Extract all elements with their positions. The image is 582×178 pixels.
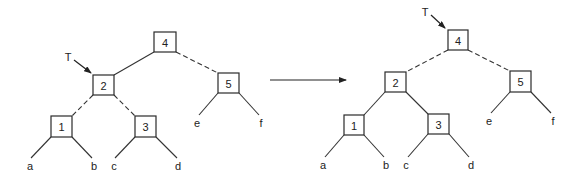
node-label: 5 [225,78,231,90]
right-leaf-d: d [468,159,474,171]
right-leaf-b: b [383,159,389,171]
left-edge-1-b [72,137,92,158]
right-leaf-a: a [320,159,327,171]
right-edge-4-5 [468,50,510,71]
left-edge-4-5 [176,52,218,73]
node-label: 5 [517,76,523,88]
left-leaf-a: a [27,160,34,172]
left-leaf-e: e [194,117,200,129]
node-label: 1 [351,120,357,132]
left-leaf-b: b [91,160,97,172]
node-label: 3 [142,121,148,133]
right-edge-3-d [449,134,469,157]
right-leaf-f: f [551,115,555,127]
left-node-2: 2 [93,75,114,95]
left-node-4: 4 [154,32,176,52]
tree-rotation-diagram: 42513abcdefT 42513abcdefT [0,0,582,178]
right-edge-5-e [491,92,510,113]
left-node-3: 3 [135,116,156,137]
left-leaf-f: f [259,117,263,129]
right-edge-2-1 [364,92,385,115]
right-edge-4-2 [406,50,448,72]
right-edge-1-b [364,135,384,157]
right-edge-2-3 [406,92,428,114]
diagram-svg: 42513abcdefT 42513abcdefT [0,0,582,178]
left-leaf-c: c [111,160,117,172]
node-label: 2 [392,77,398,89]
left-edge-2-1 [72,95,93,116]
right-node-3: 3 [428,114,449,134]
right-edge-3-c [408,134,428,157]
left-node-1: 1 [51,116,72,137]
right-leaf-e: e [486,115,492,127]
left-node-5: 5 [218,73,239,93]
right-leaf-c: c [403,159,409,171]
right-tree: 42513abcdefT [320,6,556,171]
left-tree: 42513abcdefT [27,32,264,172]
right-node-2: 2 [385,72,406,92]
left-leaf-d: d [175,160,181,172]
right-node-5: 5 [510,71,531,92]
left-edge-2-3 [114,95,135,116]
right-edge-1-a [325,135,344,157]
left-edge-5-f [239,93,259,115]
right-pointer-arrow-icon [431,15,445,28]
left-pointer-label: T [65,51,72,63]
left-edge-3-d [156,137,177,158]
right-edge-5-f [531,92,551,113]
left-edge-4-2 [114,52,154,75]
right-node-4: 4 [448,30,468,50]
left-edge-3-c [115,137,135,158]
left-pointer-arrow-icon [74,60,91,73]
node-label: 1 [58,121,64,133]
right-pointer-label: T [422,6,429,18]
node-label: 3 [435,119,441,131]
node-label: 4 [455,35,461,47]
left-edge-1-a [31,137,51,158]
left-edge-5-e [199,93,218,115]
node-label: 2 [100,80,106,92]
node-label: 4 [162,37,168,49]
right-node-1: 1 [344,115,364,135]
